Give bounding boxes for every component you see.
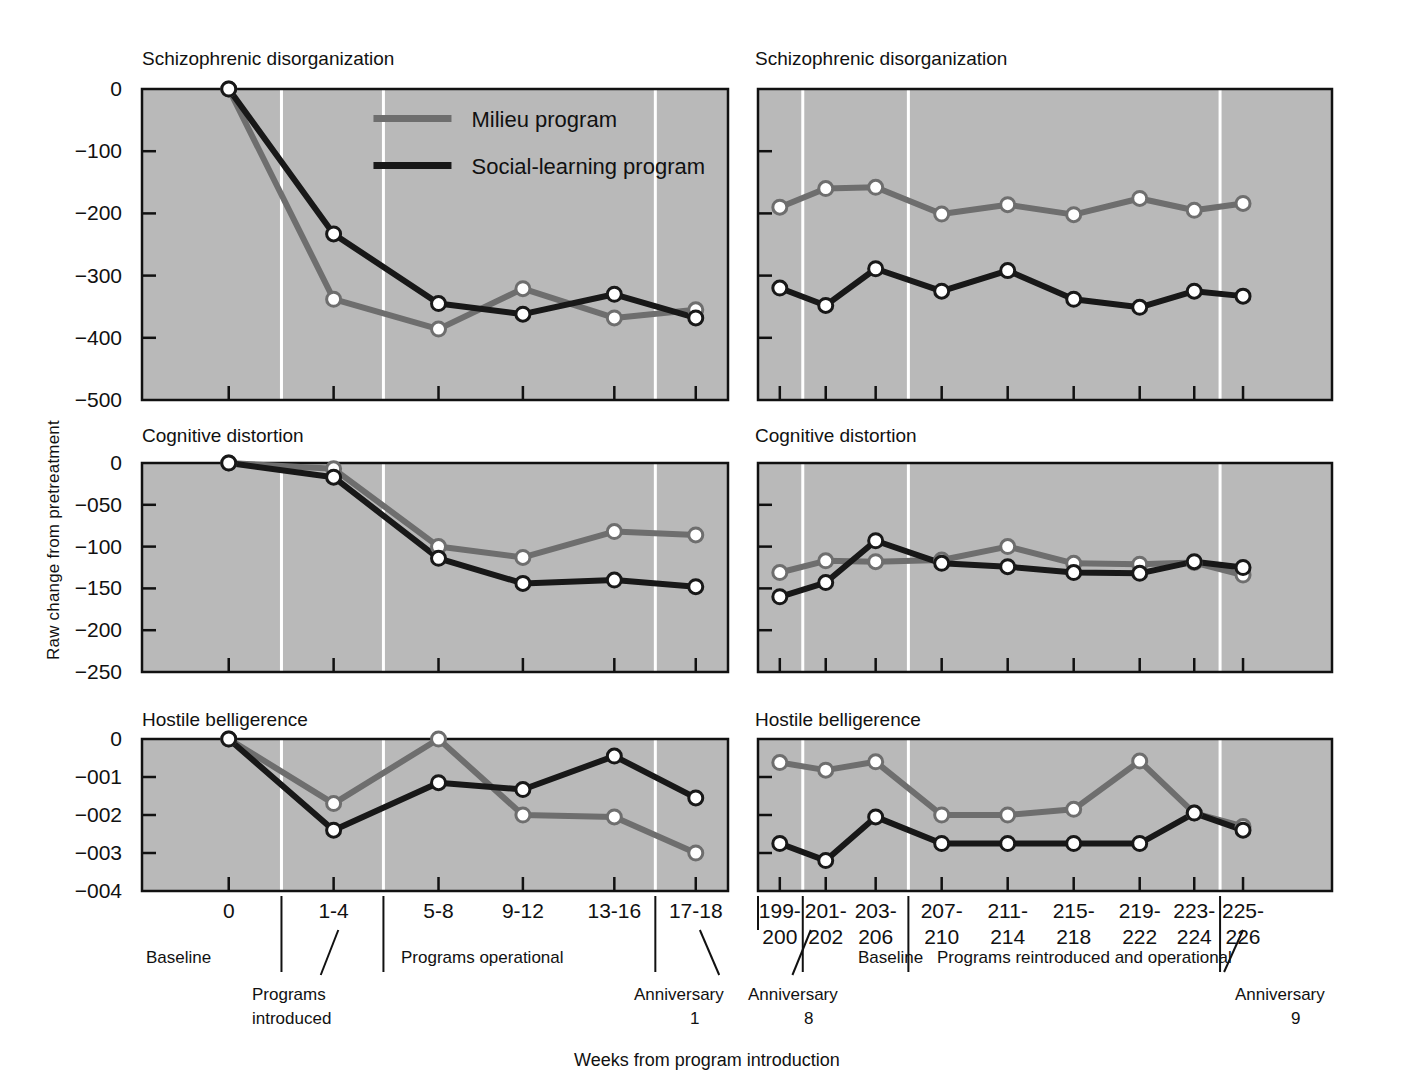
x-tick-label-right-2: 203-	[855, 899, 897, 922]
y-tick-label-0: 0	[110, 77, 122, 100]
panel-left-cognitive: 0−050−100−150−200−250	[75, 451, 728, 683]
x-tick-label-right-6: 219-	[1119, 899, 1161, 922]
x-tick-label-right-4: 214	[990, 925, 1025, 948]
plot-background-left-schizophrenic	[142, 89, 728, 400]
annotation-anniversary1-1: Anniversary	[634, 985, 724, 1005]
y-tick-label-0: 0	[110, 451, 122, 474]
data-point-milieu-4	[607, 810, 621, 824]
legend-label-1: Social-learning program	[471, 154, 705, 179]
panel-right-cognitive	[758, 463, 1332, 672]
y-tick-label-5: −500	[75, 388, 122, 411]
data-point-social-3	[935, 284, 949, 298]
x-tick-label-right-0: 199-	[759, 899, 801, 922]
data-point-social-2	[432, 776, 446, 790]
data-point-milieu-1	[327, 797, 341, 811]
data-point-social-6	[1133, 300, 1147, 314]
x-tick-label-right-8: 225-	[1222, 899, 1264, 922]
panel-left-hostile: 0−001−002−003−004	[75, 727, 728, 902]
plot-background-left-cognitive	[142, 463, 728, 672]
data-point-milieu-6	[1133, 754, 1147, 768]
data-point-milieu-2	[869, 555, 883, 569]
data-point-social-0	[222, 456, 236, 470]
y-tick-label-1: −100	[75, 139, 122, 162]
y-tick-label-3: −150	[75, 576, 122, 599]
data-point-social-5	[1067, 292, 1081, 306]
data-point-social-1	[819, 576, 833, 590]
leader-anniversary1	[700, 930, 719, 975]
x-tick-label-left-0: 0	[223, 899, 235, 922]
data-point-social-1	[327, 470, 341, 484]
data-point-milieu-4	[607, 311, 621, 325]
data-point-social-4	[607, 573, 621, 587]
y-tick-label-2: −200	[75, 201, 122, 224]
data-point-milieu-1	[327, 292, 341, 306]
data-point-social-0	[773, 590, 787, 604]
data-point-milieu-0	[773, 756, 787, 770]
y-tick-label-2: −100	[75, 535, 122, 558]
x-tick-label-right-3: 210	[924, 925, 959, 948]
annotation-anniversary8-1: Anniversary	[748, 985, 838, 1005]
data-point-milieu-6	[1133, 191, 1147, 205]
data-point-milieu-2	[432, 322, 446, 336]
data-point-milieu-2	[869, 755, 883, 769]
y-tick-label-4: −004	[75, 879, 123, 902]
data-point-social-2	[432, 297, 446, 311]
legend-label-0: Milieu program	[471, 107, 616, 132]
x-tick-label-right-5: 218	[1056, 925, 1091, 948]
plot-background-right-schizophrenic	[758, 89, 1332, 400]
data-point-social-5	[1067, 566, 1081, 580]
data-point-milieu-2	[432, 732, 446, 746]
data-point-milieu-3	[516, 550, 530, 564]
panel-left-schizophrenic: 0−100−200−300−400−500	[75, 77, 728, 411]
x-tick-label-left-5: 17-18	[669, 899, 723, 922]
data-point-milieu-3	[516, 808, 530, 822]
data-point-milieu-4	[607, 525, 621, 539]
data-point-social-0	[773, 837, 787, 851]
x-tick-label-right-6: 222	[1122, 925, 1157, 948]
data-point-social-2	[869, 810, 883, 824]
data-point-social-3	[516, 783, 530, 797]
data-point-milieu-4	[1001, 808, 1015, 822]
annotation-programs-introduced-1: Programs	[252, 985, 326, 1005]
data-point-social-5	[689, 791, 703, 805]
x-tick-label-right-1: 201-	[805, 899, 847, 922]
annotation-right-baseline: Baseline	[858, 948, 923, 968]
plot-background-right-hostile	[758, 739, 1332, 891]
x-tick-label-right-0: 200	[762, 925, 797, 948]
data-point-social-6	[1133, 566, 1147, 580]
data-point-social-8	[1236, 561, 1250, 575]
y-tick-label-0: 0	[110, 727, 122, 750]
data-point-social-0	[773, 281, 787, 295]
x-tick-label-left-2: 5-8	[423, 899, 453, 922]
data-point-social-4	[1001, 560, 1015, 574]
data-point-social-2	[432, 551, 446, 565]
x-axis-title: Weeks from program introduction	[574, 1050, 840, 1071]
data-point-social-2	[869, 534, 883, 548]
data-point-social-8	[1236, 289, 1250, 303]
x-tick-label-left-3: 9-12	[502, 899, 544, 922]
panel-right-hostile	[758, 739, 1332, 891]
data-point-milieu-5	[1067, 208, 1081, 222]
data-point-social-5	[1067, 837, 1081, 851]
annotation-programs-introduced-2: introduced	[252, 1009, 331, 1029]
data-point-social-0	[222, 732, 236, 746]
data-point-social-7	[1187, 284, 1201, 298]
x-tick-label-right-2: 206	[858, 925, 893, 948]
x-tick-label-right-5: 215-	[1053, 899, 1095, 922]
data-point-milieu-7	[1187, 203, 1201, 217]
data-point-milieu-1	[819, 554, 833, 568]
data-point-social-1	[819, 854, 833, 868]
data-point-social-0	[222, 82, 236, 96]
annotation-programs-operational: Programs operational	[401, 948, 564, 968]
panel-right-schizophrenic	[758, 89, 1332, 400]
data-point-social-8	[1236, 823, 1250, 837]
x-tick-label-right-3: 207-	[921, 899, 963, 922]
annotation-anniversary9-2: 9	[1291, 1009, 1300, 1029]
data-point-social-1	[327, 227, 341, 241]
data-point-social-7	[1187, 806, 1201, 820]
leader-programs-introduced	[321, 930, 339, 975]
x-tick-label-right-1: 202	[808, 925, 843, 948]
data-point-social-3	[935, 837, 949, 851]
annotation-anniversary1-2: 1	[690, 1009, 699, 1029]
annotation-anniversary8-2: 8	[804, 1009, 813, 1029]
